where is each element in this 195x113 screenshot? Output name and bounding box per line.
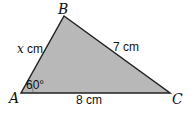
- side-ab-unit: cm: [24, 42, 43, 56]
- side-label-ab: x cm: [17, 42, 43, 56]
- side-label-bc: 7 cm: [113, 40, 139, 54]
- vertex-label-b: B: [57, 1, 68, 17]
- triangle-diagram: A B C x cm 7 cm 8 cm 60°: [0, 0, 195, 113]
- vertex-label-a: A: [7, 90, 19, 106]
- side-label-ac: 8 cm: [76, 93, 102, 107]
- angle-label-a: 60°: [26, 78, 44, 92]
- vertex-label-c: C: [172, 91, 183, 107]
